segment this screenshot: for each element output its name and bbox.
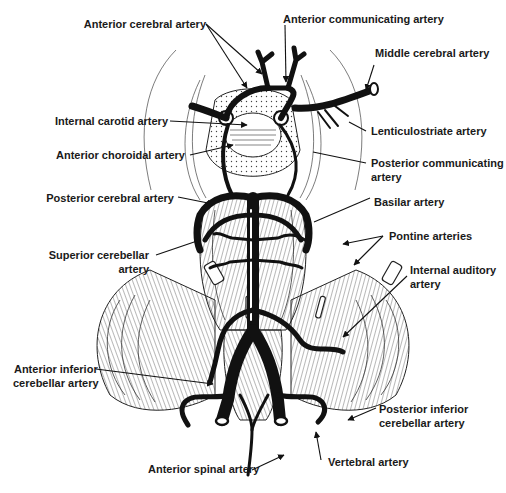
- label-middle-cerebral-artery: Middle cerebral artery: [375, 46, 489, 60]
- label-anterior-inferior-cerebellar-artery: Anterior inferior cerebellar artery: [13, 362, 99, 390]
- label-pontine-arteries: Pontine arteries: [389, 229, 472, 243]
- label-posterior-cerebral-artery: Posterior cerebral artery: [46, 191, 174, 205]
- label-anterior-cerebral-artery: Anterior cerebral artery: [84, 17, 206, 31]
- label-posterior-communicating-artery: Posterior communicating artery: [371, 156, 504, 184]
- label-anterior-spinal-artery: Anterior spinal artery: [148, 462, 259, 476]
- label-internal-auditory-artery: Internal auditory artery: [410, 263, 496, 291]
- label-anterior-communicating-artery: Anterior communicating artery: [283, 12, 444, 26]
- label-lenticulostriate-artery: Lenticulostriate artery: [371, 124, 487, 138]
- label-vertebral-artery: Vertebral artery: [328, 455, 409, 469]
- label-anterior-choroidal-artery: Anterior choroidal artery: [56, 148, 185, 162]
- label-posterior-inferior-cerebellar-artery: Posterior inferior cerebellar artery: [379, 402, 468, 430]
- label-basilar-artery: Basilar artery: [374, 195, 444, 209]
- brain-arteries-diagram: Anterior cerebral artery Anterior commun…: [0, 0, 506, 493]
- label-internal-carotid-artery: Internal carotid artery: [55, 114, 168, 128]
- label-superior-cerebellar-artery: Superior cerebellar artery: [49, 248, 149, 276]
